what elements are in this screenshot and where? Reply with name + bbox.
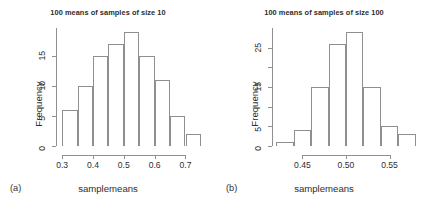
histogram-bar <box>124 32 139 146</box>
histogram-bar <box>329 44 346 146</box>
y-tick-mark <box>52 116 56 117</box>
histogram-bar <box>294 130 311 146</box>
x-tick-mark <box>302 155 303 159</box>
y-tick-mark <box>268 87 272 88</box>
histogram-bar <box>155 80 170 146</box>
y-tick-label: 5 <box>254 127 263 132</box>
y-tick-label: 10 <box>38 81 47 91</box>
x-tick-label: 0.55 <box>381 161 398 170</box>
y-tick-label: 0 <box>38 146 47 151</box>
y-tick-label: 0 <box>254 146 263 151</box>
x-tick-mark <box>93 155 94 159</box>
histogram-bar <box>78 86 93 146</box>
x-tick-label: 0.3 <box>56 161 68 170</box>
panel-b-title: 100 means of samples of size 100 <box>216 8 432 17</box>
y-tick-mark <box>268 126 272 127</box>
y-tick-mark <box>268 107 272 108</box>
panel-b-tag: (b) <box>226 183 237 193</box>
x-tick-mark <box>390 155 391 159</box>
histogram-bar <box>93 56 108 146</box>
x-tick-mark <box>124 155 125 159</box>
histogram-bar <box>381 126 398 146</box>
x-tick-label: 0.5 <box>118 161 130 170</box>
x-tick-label: 0.4 <box>87 161 99 170</box>
y-tick-mark <box>268 48 272 49</box>
x-tick-mark <box>185 155 186 159</box>
y-tick-label: 15 <box>254 82 263 92</box>
y-tick-mark <box>52 56 56 57</box>
x-tick-mark <box>62 155 63 159</box>
histogram-bar <box>311 87 328 146</box>
panel-a-bars <box>56 28 204 146</box>
y-tick-mark <box>52 86 56 87</box>
y-tick-mark <box>268 67 272 68</box>
y-tick-mark <box>268 146 272 147</box>
panel-b-plot-area: 051525 0.450.500.55 <box>272 28 420 146</box>
histogram-bar <box>108 44 123 146</box>
x-tick-label: 0.6 <box>149 161 161 170</box>
x-tick-label: 0.45 <box>294 161 311 170</box>
panel-a-tag: (a) <box>10 183 21 193</box>
panel-b: 100 means of samples of size 100 Frequen… <box>216 0 432 208</box>
histogram-bar <box>186 134 201 146</box>
y-tick-label: 15 <box>38 51 47 61</box>
figure-histogram-pair: 100 means of samples of size 10 Frequenc… <box>0 0 432 208</box>
x-tick-label: 0.7 <box>180 161 192 170</box>
x-tick-label: 0.50 <box>338 161 355 170</box>
y-tick-label: 25 <box>254 43 263 53</box>
y-tick-label: 5 <box>38 116 47 121</box>
histogram-bar <box>139 56 154 146</box>
histogram-bar <box>276 142 293 146</box>
panel-a: 100 means of samples of size 10 Frequenc… <box>0 0 216 208</box>
histogram-bar <box>363 87 380 146</box>
histogram-bar <box>170 116 185 146</box>
histogram-bar <box>398 134 415 146</box>
x-tick-mark <box>155 155 156 159</box>
panel-a-title: 100 means of samples of size 10 <box>0 8 216 17</box>
panel-a-x-axis: 0.30.40.50.60.7 <box>62 155 185 156</box>
histogram-bar <box>62 110 77 146</box>
panel-a-plot-area: 051015 0.30.40.50.60.7 <box>56 28 204 146</box>
panel-a-xlabel: samplemeans <box>0 183 216 194</box>
x-tick-mark <box>346 155 347 159</box>
panel-b-bars <box>272 28 420 146</box>
y-tick-mark <box>52 146 56 147</box>
panel-b-x-axis: 0.450.500.55 <box>302 155 389 156</box>
histogram-bar <box>346 32 363 146</box>
panel-b-xlabel: samplemeans <box>216 183 432 194</box>
